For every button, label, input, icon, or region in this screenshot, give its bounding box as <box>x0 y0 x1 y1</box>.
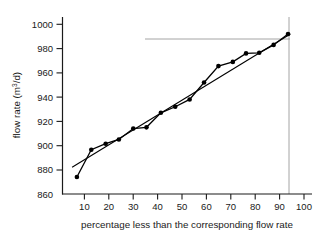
y-axis-tick-labels: 1000 980 960 940 920 900 880 860 <box>32 19 53 200</box>
y-axis-title-post: /d) <box>11 72 22 83</box>
data-point <box>75 175 80 180</box>
data-point <box>89 147 94 152</box>
chart-container: 1000 980 960 940 920 900 880 860 10 20 <box>0 0 334 250</box>
y-axis-title-pre: flow rate (m <box>11 87 22 138</box>
data-point <box>271 43 276 48</box>
data-polyline <box>77 34 288 177</box>
y-axis-ticks <box>57 24 63 170</box>
data-point <box>187 97 192 102</box>
x-tick-label-60: 60 <box>201 201 212 212</box>
x-tick-label-70: 70 <box>226 201 237 212</box>
x-tick-label-80: 80 <box>250 201 261 212</box>
data-point <box>216 64 221 69</box>
data-point <box>131 126 136 131</box>
x-axis-ticks <box>84 194 304 200</box>
data-point <box>144 125 149 130</box>
y-tick-label-960: 960 <box>37 67 53 78</box>
data-point <box>202 80 207 85</box>
data-point <box>244 51 249 56</box>
y-tick-label-860: 860 <box>37 189 53 200</box>
x-tick-label-40: 40 <box>152 201 163 212</box>
data-point <box>231 60 236 65</box>
x-tick-label-10: 10 <box>79 201 90 212</box>
data-point <box>103 141 108 146</box>
y-tick-label-980: 980 <box>37 43 53 54</box>
x-axis-tick-labels: 10 20 30 40 50 60 70 80 90 100 <box>79 201 312 212</box>
data-point <box>286 32 291 37</box>
y-tick-label-900: 900 <box>37 140 53 151</box>
data-point <box>117 137 122 142</box>
y-tick-label-940: 940 <box>37 92 53 103</box>
x-tick-label-100: 100 <box>296 201 312 212</box>
y-tick-label-1000: 1000 <box>32 19 53 30</box>
reference-lines <box>145 17 290 194</box>
x-tick-label-20: 20 <box>104 201 115 212</box>
x-tick-label-50: 50 <box>177 201 188 212</box>
x-tick-label-90: 90 <box>274 201 285 212</box>
x-tick-label-30: 30 <box>128 201 139 212</box>
data-point <box>173 104 178 109</box>
y-tick-label-920: 920 <box>37 116 53 127</box>
data-point <box>257 50 262 55</box>
x-axis-title: percentage less than the corresponding f… <box>81 219 293 230</box>
data-point-markers <box>75 32 291 180</box>
y-tick-label-880: 880 <box>37 164 53 175</box>
y-axis-title: flow rate (m3/d) <box>11 72 22 138</box>
flow-rate-probability-plot: 1000 980 960 940 920 900 880 860 10 20 <box>0 0 334 250</box>
data-point <box>159 110 164 115</box>
